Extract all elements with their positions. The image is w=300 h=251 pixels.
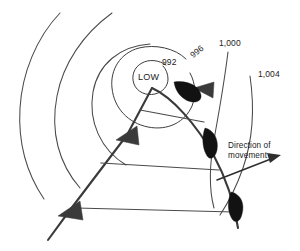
isobar-992-label: 992 [162,57,176,67]
connector-line-middle [101,163,219,170]
isobar-1004-label: 1,004 [258,69,280,79]
diagram-canvas [0,0,300,251]
direction-of-movement-label: Direction of movement [228,141,271,162]
cyclone-front-diagram: LOW 992 996 1,000 1,004 Direction of mov… [0,0,300,251]
cold-front-triangle-2 [116,126,139,145]
isobar-outer-left-line [20,13,60,199]
cold-front-line [48,88,152,240]
warm-front-semicircle-1 [174,82,201,102]
isobar-second-left-line [55,13,112,188]
isobar-1000-left-line [92,44,150,165]
warm-front-semicircle-3 [228,192,243,222]
low-center-label: LOW [138,72,159,83]
cold-front-triangle-3 [58,201,83,220]
connector-line-upper [140,110,204,122]
isobar-1000-label: 1,000 [219,38,241,48]
connector-line-lower [76,208,234,212]
isobar-1000-line [210,52,228,208]
